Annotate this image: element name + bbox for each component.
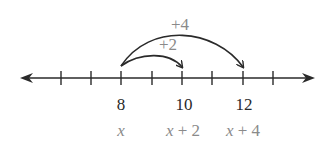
expression-label-x: x xyxy=(116,121,125,140)
expression-label-x-plus-4: x + 4 xyxy=(225,121,261,140)
variable-x: x xyxy=(116,121,125,140)
plus-two-term: + 2 xyxy=(173,121,200,140)
plus-four-term: + 4 xyxy=(233,121,260,140)
arc-label-plus-four: +4 xyxy=(171,15,190,34)
number-line-axis xyxy=(20,73,315,83)
arc-plus-two xyxy=(121,56,182,67)
arc-label-plus-two: +2 xyxy=(159,35,177,54)
jump-arcs xyxy=(121,35,243,67)
number-line-diagram: +4 +2 8 10 12 x x + 2 x + 4 xyxy=(0,0,328,150)
expression-label-x-plus-2: x + 2 xyxy=(165,121,200,140)
number-label-10: 10 xyxy=(176,95,193,114)
number-label-12: 12 xyxy=(236,95,253,114)
number-label-8: 8 xyxy=(117,95,126,114)
arc-plus-four xyxy=(121,35,243,67)
